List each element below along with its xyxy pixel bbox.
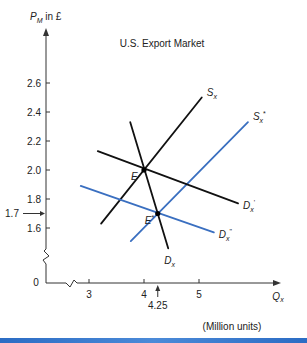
- point-e: [141, 167, 146, 172]
- x-axis-label: Qx: [272, 291, 284, 303]
- point-label: E*: [145, 214, 155, 226]
- annotation-arrow-head: [155, 285, 160, 291]
- bottom-bar: [0, 338, 307, 343]
- curve-s-x: [101, 98, 202, 224]
- point-label: E: [131, 171, 138, 182]
- x-tick-label: 5: [196, 289, 202, 300]
- curve-label: Dx": [219, 228, 233, 242]
- curve-d-x: [130, 122, 168, 248]
- curve-label: Sx*: [253, 110, 266, 124]
- curve-d-x-: [98, 151, 238, 203]
- y-tick-label: 2.4: [27, 107, 41, 118]
- point-e-star: [155, 211, 160, 216]
- origin-label: 0: [33, 277, 39, 288]
- curve-label: Dx: [164, 255, 175, 268]
- y-axis-arrow: [43, 28, 49, 36]
- x-tick-label: 3: [86, 289, 92, 300]
- chart: 1.61.82.02.22.42.63450 PM in £Qx(Million…: [0, 0, 307, 343]
- y-tick-label: 2.0: [27, 165, 41, 176]
- annotation-label: 4.25: [148, 300, 168, 311]
- x-axis-arrow: [273, 280, 281, 286]
- y-axis-label: PM in £: [30, 11, 62, 24]
- curves: [81, 98, 248, 249]
- curve-label: Sx: [207, 87, 218, 100]
- x-axis: [46, 280, 275, 287]
- annotation-arrow-head: [40, 211, 45, 216]
- x-tick-label: 4: [141, 289, 147, 300]
- y-tick-label: 1.6: [27, 223, 41, 234]
- axes: 1.61.82.02.22.42.63450: [27, 28, 281, 300]
- y-tick-label: 2.6: [27, 78, 41, 89]
- y-tick-label: 2.2: [27, 136, 41, 147]
- y-axis: [43, 32, 49, 283]
- annotation-label: 1.7: [5, 208, 19, 219]
- x-units-label: (Million units): [203, 321, 262, 332]
- curve-label: Dx': [243, 199, 255, 213]
- chart-title: U.S. Export Market: [120, 38, 205, 49]
- y-tick-label: 1.8: [27, 194, 41, 205]
